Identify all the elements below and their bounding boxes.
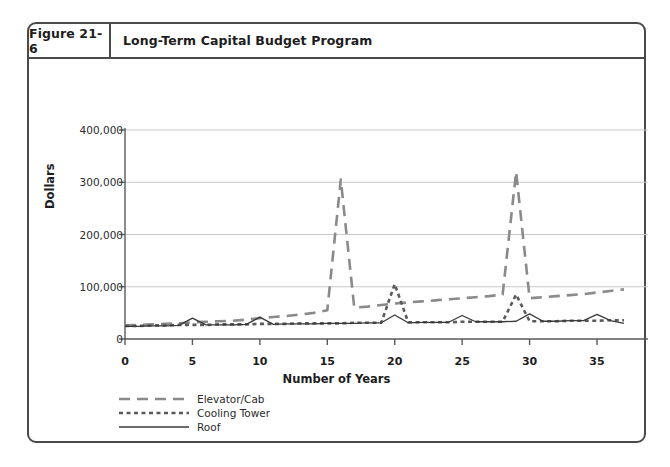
figure-frame: Figure 21-6 Long-Term Capital Budget Pro… bbox=[27, 22, 646, 443]
x-tick-label: 30 bbox=[515, 355, 545, 368]
legend-swatch-1 bbox=[119, 408, 189, 418]
x-axis-title: Number of Years bbox=[29, 372, 644, 386]
x-tick-label: 25 bbox=[447, 355, 477, 368]
legend-label: Cooling Tower bbox=[197, 407, 270, 419]
y-tick-label: 300,000 bbox=[59, 176, 123, 188]
x-tick-label: 5 bbox=[177, 355, 207, 368]
figure-title: Long-Term Capital Budget Program bbox=[111, 24, 644, 57]
y-tick-label: 200,000 bbox=[59, 229, 123, 241]
x-tick-label: 35 bbox=[582, 355, 612, 368]
legend-item: Cooling Tower bbox=[119, 406, 270, 420]
x-tick-label: 10 bbox=[245, 355, 275, 368]
x-tick-label: 0 bbox=[110, 355, 140, 368]
legend-swatch-0 bbox=[119, 394, 189, 404]
y-tick-label: 400,000 bbox=[59, 124, 123, 136]
x-tick-label: 15 bbox=[312, 355, 342, 368]
x-tick-label: 20 bbox=[380, 355, 410, 368]
y-tick-label: 100,000 bbox=[59, 281, 123, 293]
legend-label: Roof bbox=[197, 421, 220, 433]
series-line-0 bbox=[125, 172, 624, 326]
legend-item: Elevator/Cab bbox=[119, 392, 270, 406]
series-line-1 bbox=[125, 284, 624, 326]
legend-swatch-2 bbox=[119, 422, 189, 432]
y-axis-tick-labels: 0100,000200,000300,000400,000 bbox=[53, 59, 123, 359]
chart-legend: Elevator/CabCooling TowerRoof bbox=[119, 392, 270, 434]
figure-header: Figure 21-6 Long-Term Capital Budget Pro… bbox=[29, 24, 644, 59]
legend-item: Roof bbox=[119, 420, 270, 434]
figure-number-label: Figure 21-6 bbox=[29, 24, 111, 57]
legend-label: Elevator/Cab bbox=[197, 393, 265, 405]
y-tick-label: 0 bbox=[59, 333, 123, 345]
chart-area: Dollars 0100,000200,000300,000400,000 05… bbox=[29, 59, 644, 441]
